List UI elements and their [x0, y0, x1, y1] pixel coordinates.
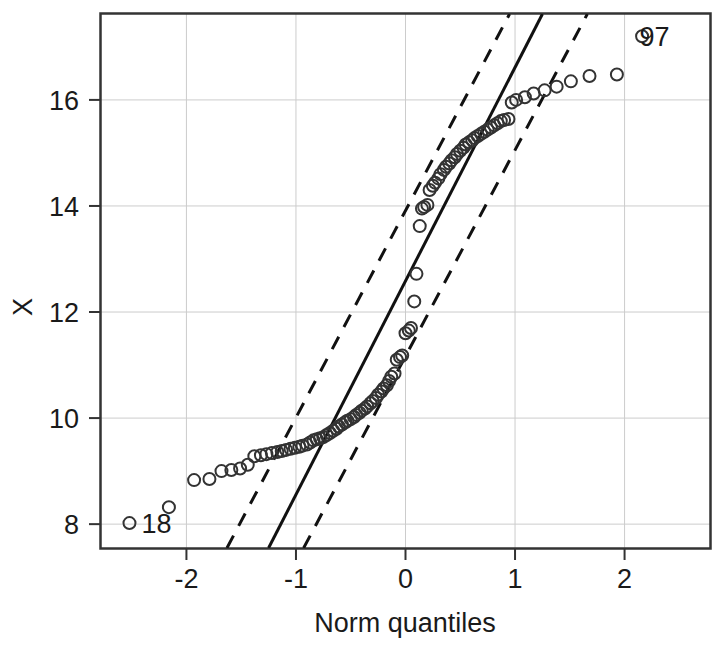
x-tick-label: 1 — [508, 564, 523, 594]
x-tick-label: 0 — [398, 564, 413, 594]
y-axis-title: X — [8, 298, 38, 316]
y-tick-label: 10 — [49, 404, 79, 434]
qq-plot-canvas: -2-1012810121416 1897 Norm quantiles X — [0, 0, 718, 648]
y-tick-label: 14 — [49, 192, 79, 222]
qq-plot-figure: -2-1012810121416 1897 Norm quantiles X — [0, 0, 718, 648]
x-tick-label: 2 — [617, 564, 632, 594]
y-tick-label: 12 — [49, 298, 79, 328]
y-tick-label: 8 — [64, 510, 79, 540]
outlier-label-18: 18 — [141, 509, 171, 539]
figure-background — [0, 0, 718, 648]
x-axis-title: Norm quantiles — [314, 608, 496, 638]
x-tick-label: -2 — [174, 564, 198, 594]
x-tick-label: -1 — [284, 564, 308, 594]
outlier-label-97: 97 — [639, 22, 669, 52]
y-tick-label: 16 — [49, 86, 79, 116]
